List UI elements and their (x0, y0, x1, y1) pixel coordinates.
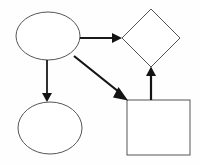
edge-ellipse-top-to-ellipse-bottom-arrowhead (42, 93, 52, 102)
edge-square-to-diamond-arrowhead (146, 67, 156, 77)
node-ellipse-bottom-left[interactable] (18, 102, 82, 154)
flowchart-diagram (0, 0, 201, 164)
diagram-canvas (0, 0, 201, 164)
edge-ellipse-top-to-diamond[interactable] (80, 33, 122, 43)
edge-square-to-diamond[interactable] (146, 67, 156, 101)
edge-ellipse-top-to-ellipse-bottom[interactable] (42, 60, 52, 102)
node-diamond-top-right[interactable] (122, 9, 180, 67)
edge-ellipse-top-to-square-line (74, 56, 119, 92)
edge-ellipse-top-to-diamond-arrowhead (112, 33, 122, 43)
node-ellipse-top-left[interactable] (16, 12, 80, 60)
node-square-bottom-right[interactable] (127, 100, 190, 155)
nodes-layer (16, 9, 190, 155)
edge-ellipse-top-to-square[interactable] (74, 56, 128, 101)
